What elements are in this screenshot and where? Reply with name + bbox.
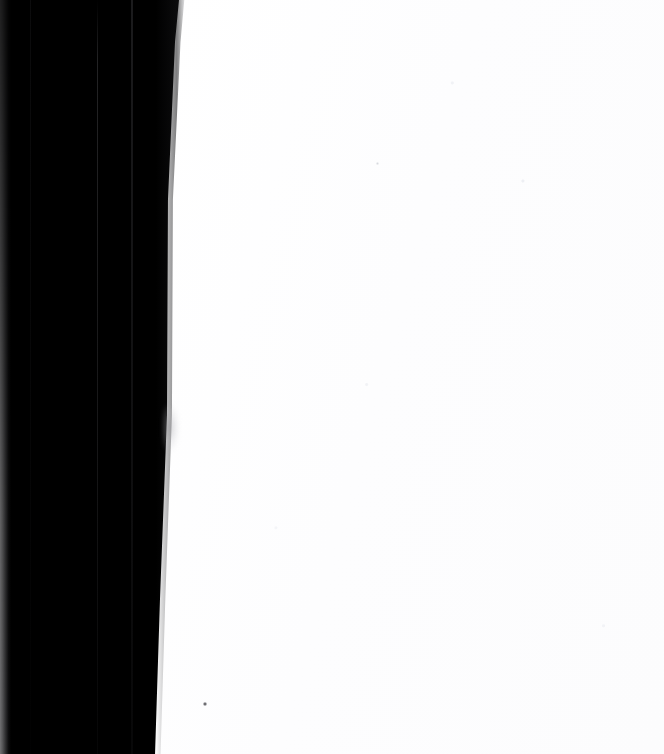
image-canvas: Blank white page with black left margin …: [0, 0, 664, 754]
